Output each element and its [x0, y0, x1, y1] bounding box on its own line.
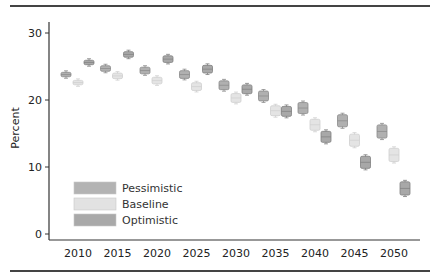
y-tick-label: 10 — [28, 161, 42, 174]
y-tick-label: 30 — [28, 27, 42, 40]
data-point-optimistic — [361, 155, 371, 170]
data-point-optimistic — [321, 130, 331, 144]
y-tick-label: 0 — [35, 228, 42, 241]
data-point-baseline — [389, 147, 399, 163]
y-axis-title: Percent — [9, 107, 22, 149]
data-point-baseline — [113, 72, 123, 81]
x-tick-label: 2045 — [341, 247, 369, 260]
legend-swatch-optimistic — [74, 214, 116, 226]
data-point-pessimistic — [338, 113, 348, 128]
data-point-optimistic — [400, 180, 410, 196]
x-tick-label: 2035 — [262, 247, 290, 260]
data-point-baseline — [152, 76, 162, 86]
y-tick-label: 20 — [28, 94, 42, 107]
data-point-pessimistic — [219, 79, 229, 91]
data-point-pessimistic — [298, 101, 308, 115]
data-point-baseline — [231, 92, 241, 104]
legend-label-optimistic: Optimistic — [122, 214, 178, 227]
data-point-baseline — [192, 81, 202, 92]
legend-label-pessimistic: Pessimistic — [122, 182, 182, 195]
legend: PessimisticBaselineOptimistic — [74, 182, 182, 227]
legend-swatch-baseline — [74, 198, 116, 210]
legend-label-baseline: Baseline — [122, 198, 169, 211]
x-tick-label: 2050 — [380, 247, 408, 260]
data-point-baseline — [271, 104, 281, 117]
legend-swatch-pessimistic — [74, 182, 116, 194]
x-tick-label: 2020 — [143, 247, 171, 260]
x-tick-label: 2015 — [104, 247, 132, 260]
data-point-pessimistic — [140, 66, 150, 76]
data-point-pessimistic — [101, 64, 111, 73]
chart: 0102030201020152020202520302035204020452… — [0, 0, 438, 276]
data-point-optimistic — [203, 64, 213, 75]
data-point-pessimistic — [180, 69, 190, 80]
x-tick-label: 2010 — [64, 247, 92, 260]
data-point-baseline — [73, 79, 83, 86]
data-point-optimistic — [163, 54, 173, 64]
data-point-baseline — [350, 133, 360, 148]
data-point-pessimistic — [377, 123, 387, 139]
data-point-baseline — [310, 118, 320, 132]
data-point-optimistic — [282, 105, 292, 118]
data-point-pessimistic — [259, 90, 269, 103]
data-point-optimistic — [124, 50, 134, 59]
x-tick-label: 2040 — [301, 247, 329, 260]
data-point-optimistic — [242, 83, 252, 95]
x-tick-label: 2030 — [222, 247, 250, 260]
x-tick-label: 2025 — [183, 247, 211, 260]
data-point-pessimistic — [61, 71, 71, 78]
data-point-optimistic — [84, 59, 94, 66]
data-points — [61, 50, 410, 196]
